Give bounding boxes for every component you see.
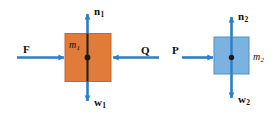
block-2-center-dot — [229, 55, 234, 60]
label-n1: n1 — [94, 6, 104, 17]
label-m1: m1 — [69, 40, 80, 50]
label-p: P — [172, 45, 179, 56]
label-m2: m2 — [253, 52, 264, 62]
label-q: Q — [141, 45, 150, 56]
label-w1: w1 — [94, 97, 106, 108]
label-n2: n2 — [238, 11, 248, 22]
figure-canvas: n1 w1 F Q m1 n2 w2 P m2 — [0, 0, 279, 118]
block-1-center-dot — [85, 55, 91, 61]
label-w2: w2 — [238, 94, 250, 105]
label-f: F — [23, 44, 30, 55]
